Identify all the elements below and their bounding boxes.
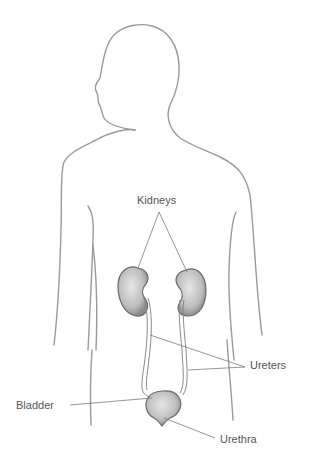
- left-kidney: [118, 267, 148, 316]
- label-urethra: Urethra: [220, 433, 257, 445]
- bladder-leader: [70, 398, 152, 405]
- label-ureters: Ureters: [250, 359, 286, 371]
- label-kidneys: Kidneys: [137, 194, 176, 206]
- urethra-leader: [164, 418, 215, 438]
- kidneys-leader: [138, 212, 187, 272]
- body-outline: [54, 25, 262, 425]
- label-bladder: Bladder: [16, 399, 54, 411]
- right-kidney: [176, 269, 206, 316]
- urinary-system-diagram: [0, 0, 316, 464]
- bladder: [146, 391, 181, 426]
- kidneys: [118, 267, 206, 316]
- ureters-leader: [150, 335, 245, 370]
